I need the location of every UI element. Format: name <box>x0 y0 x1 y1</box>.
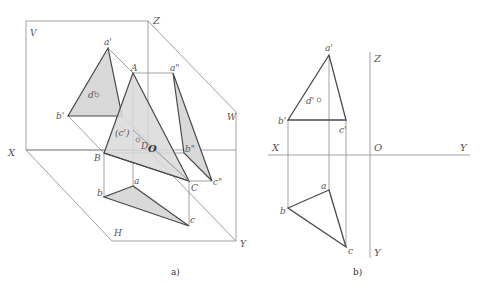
label-c-h: c <box>190 215 195 225</box>
label-a-h: a <box>134 176 139 186</box>
label-h-plane: H <box>113 228 122 238</box>
triangle-h-projection <box>104 186 189 226</box>
proj-line-b <box>68 116 104 153</box>
label-a-prime: a' <box>325 43 333 53</box>
label-C: C <box>191 183 198 193</box>
figure-b: X O Y Z Y a' b' c' d' a b c b) <box>268 43 470 277</box>
triangle-h-view <box>288 190 346 247</box>
label-y-h: Y <box>374 247 382 258</box>
label-b-prime: b' <box>278 116 286 126</box>
label-z: Z <box>373 53 382 64</box>
label-x: X <box>271 142 280 153</box>
label-a-prime: a' <box>104 37 112 47</box>
label-c: c <box>348 246 353 256</box>
caption-b: b) <box>353 267 362 277</box>
label-y-w: Y <box>460 142 468 153</box>
triangle-v-view <box>288 55 346 120</box>
label-x: X <box>7 147 16 158</box>
label-D: D <box>140 141 148 151</box>
figure-a: X Z V W H Y O a' b' (c') d' A B C D a" b… <box>7 15 247 277</box>
label-B: B <box>93 153 101 163</box>
label-d-prime: d' <box>88 90 96 100</box>
label-b-prime: b' <box>56 111 64 121</box>
label-w-plane: W <box>227 112 237 122</box>
label-b-h: b <box>97 188 103 198</box>
label-A: A <box>130 63 138 73</box>
label-v-plane: V <box>30 28 38 38</box>
label-c-double-prime: c" <box>213 177 222 187</box>
label-y: Y <box>240 239 247 249</box>
label-b-double-prime: b" <box>185 144 195 154</box>
point-d-prime-marker <box>317 98 321 102</box>
projection-figure: X Z V W H Y O a' b' (c') d' A B C D a" b… <box>0 0 482 292</box>
label-d-prime: d' <box>306 96 314 106</box>
label-z: Z <box>152 15 161 26</box>
label-c-prime: (c') <box>115 128 130 138</box>
label-c-prime: c' <box>339 125 347 135</box>
label-a: a <box>321 181 326 191</box>
label-o: O <box>148 143 157 154</box>
label-b: b <box>280 206 286 216</box>
triangle-v-projection <box>68 48 122 116</box>
label-o: O <box>374 142 382 153</box>
caption-a: a) <box>171 267 180 277</box>
w-plane-top-edge <box>148 21 236 112</box>
label-a-double-prime: a" <box>170 63 180 73</box>
